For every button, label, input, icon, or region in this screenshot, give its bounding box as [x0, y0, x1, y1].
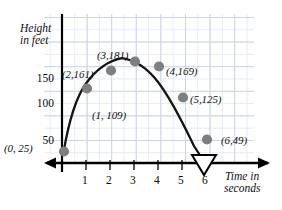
x-axis-title-line2: seconds: [224, 182, 260, 194]
point-label-1: (1, 109): [92, 110, 126, 122]
x-tick-3: 3: [130, 174, 136, 186]
data-point-4: [154, 61, 164, 71]
point-label-3: (3,181): [97, 50, 128, 62]
y-tick-100: 100: [26, 97, 54, 109]
x-tick-1: 1: [82, 174, 88, 186]
y-axis-title-line2: in feet: [20, 34, 51, 46]
data-point-2: [106, 65, 116, 75]
x-tick-5: 5: [178, 174, 184, 186]
x-axis: [44, 158, 270, 169]
x-axis-ticks: [86, 160, 206, 170]
y-axis-title-line1: Height: [20, 22, 51, 34]
y-axis-title: Height in feet: [20, 22, 51, 47]
y-tick-150: 150: [26, 72, 54, 84]
x-tick-2: 2: [106, 174, 112, 186]
data-point-6: [202, 134, 212, 144]
x-tick-4: 4: [154, 174, 160, 186]
graph-figure: Height in feet Time in seconds 150 100 5…: [0, 0, 282, 210]
data-point-1: [82, 83, 92, 93]
point-label-6: (6,49): [221, 135, 247, 147]
landing-triangle-marker: [192, 155, 216, 175]
data-point-5: [178, 92, 188, 102]
y-tick-50: 50: [30, 134, 54, 146]
data-point-3: [130, 56, 140, 66]
x-axis-title: Time in seconds: [224, 170, 260, 195]
x-axis-title-line1: Time in: [224, 170, 260, 182]
point-label-5: (5,125): [190, 94, 221, 106]
point-label-4: (4,169): [166, 66, 197, 78]
data-point-0: [59, 146, 69, 156]
point-label-0: (0, 25): [4, 143, 33, 155]
x-tick-6: 6: [202, 174, 208, 186]
point-label-2: (2,161): [62, 69, 93, 81]
